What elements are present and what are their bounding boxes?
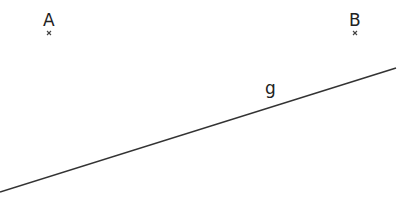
point-a-label: A [43, 12, 55, 29]
line-g[interactable] [0, 68, 396, 192]
point-b-marker[interactable] [353, 31, 357, 35]
point-a-marker[interactable] [47, 31, 51, 35]
point-b-label: B [349, 12, 361, 29]
line-g-label: g [265, 80, 276, 97]
geometry-canvas [0, 0, 406, 207]
